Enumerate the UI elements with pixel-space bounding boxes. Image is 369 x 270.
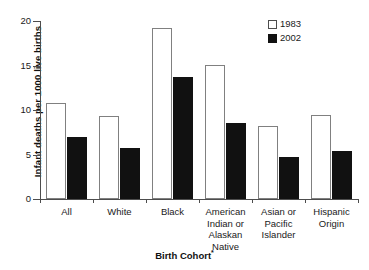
x-tick-label-white: White	[93, 206, 146, 218]
bar-2002-hispanic-origin	[332, 151, 352, 199]
bar-2002-black	[173, 77, 193, 199]
x-tick-4	[252, 199, 253, 203]
y-tick-label-0: 0	[0, 194, 31, 204]
chart-screenshot: Infant deaths per 1000 live births 05101…	[0, 0, 369, 270]
legend-label-1983: 1983	[280, 19, 301, 29]
x-tick-end	[358, 199, 359, 203]
y-tick-label-5: 5	[0, 150, 31, 160]
y-tick-label-20: 20	[0, 16, 31, 26]
bar-1983-white	[99, 116, 119, 199]
plot-area	[40, 21, 358, 199]
bar-2002-american-indian-or-alaskan-native	[226, 123, 246, 199]
x-axis-title-footnote-marker: *	[211, 249, 214, 256]
legend-item-1983: 1983	[268, 18, 301, 30]
x-tick-label-line: Islander	[252, 229, 305, 241]
bar-1983-black	[152, 28, 172, 199]
x-tick-1	[93, 199, 94, 203]
bar-2002-asian-or-pacific-islander	[279, 157, 299, 199]
bar-1983-american-indian-or-alaskan-native	[205, 65, 225, 199]
y-tick-5	[33, 155, 40, 156]
y-tick-0	[33, 199, 40, 200]
open-square-icon	[268, 20, 277, 29]
x-tick-label-line: Pacific	[252, 218, 305, 230]
bar-2002-all	[67, 137, 87, 199]
chart-legend: 19832002	[268, 18, 301, 46]
x-tick-label-line: White	[93, 206, 146, 218]
x-tick-2	[146, 199, 147, 203]
y-tick-20	[33, 21, 40, 22]
x-tick-label-american-indian-or-alaskan-native: AmericanIndian orAlaskanNative	[199, 206, 252, 252]
x-tick-0	[40, 199, 41, 203]
x-tick-5	[305, 199, 306, 203]
x-tick-label-line: All	[40, 206, 93, 218]
x-tick-label-line: Indian or	[199, 218, 252, 230]
x-tick-label-all: All	[40, 206, 93, 218]
x-tick-label-line: Asian or	[252, 206, 305, 218]
x-tick-label-line: Alaskan	[199, 229, 252, 241]
x-tick-3	[199, 199, 200, 203]
x-tick-label-asian-or-pacific-islander: Asian orPacificIslander	[252, 206, 305, 241]
x-axis-title: Birth Cohort*	[0, 249, 369, 261]
legend-label-2002: 2002	[280, 33, 301, 43]
bar-1983-all	[46, 103, 66, 199]
x-tick-label-line: American	[199, 206, 252, 218]
x-tick-label-line: Black	[146, 206, 199, 218]
y-tick-label-15: 15	[0, 61, 31, 71]
y-tick-10	[33, 110, 40, 111]
legend-item-2002: 2002	[268, 32, 301, 44]
bar-2002-white	[120, 148, 140, 199]
y-tick-label-10: 10	[0, 105, 31, 115]
x-axis-title-text: Birth Cohort	[155, 250, 211, 261]
x-tick-label-line: Hispanic	[305, 206, 358, 218]
x-tick-label-black: Black	[146, 206, 199, 218]
x-tick-label-hispanic-origin: HispanicOrigin	[305, 206, 358, 229]
bar-1983-hispanic-origin	[311, 115, 331, 199]
bar-1983-asian-or-pacific-islander	[258, 126, 278, 199]
x-tick-label-line: Origin	[305, 218, 358, 230]
y-tick-15	[33, 66, 40, 67]
filled-square-icon	[268, 34, 277, 43]
